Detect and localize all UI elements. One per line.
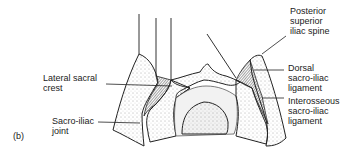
label-interosseous-sacro-iliac-ligament: Interosseous sacro-iliac ligament — [288, 96, 340, 126]
anatomy-diagram: Lateral sacral crest Sacro-iliac joint (… — [0, 0, 356, 156]
figure-label: (b) — [13, 131, 24, 141]
label-sacro-iliac-joint: Sacro-iliac joint — [52, 116, 94, 136]
label-lateral-sacral-crest: Lateral sacral crest — [43, 73, 97, 93]
label-dorsal-sacro-iliac-ligament: Dorsal sacro-iliac ligament — [288, 63, 329, 93]
label-posterior-superior-iliac-spine: Posterior superior iliac spine — [290, 6, 330, 36]
leader-psis — [262, 36, 286, 54]
